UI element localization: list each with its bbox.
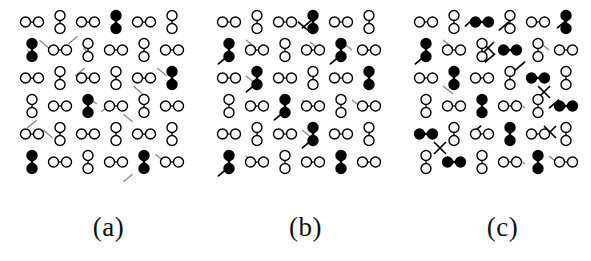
filled-dimer <box>83 95 93 118</box>
open-site <box>133 73 143 83</box>
open-site <box>21 73 31 83</box>
tick-mark <box>40 40 48 47</box>
open-site <box>315 45 325 55</box>
filled-dimer <box>27 39 37 62</box>
open-site <box>34 129 44 139</box>
filled-site <box>83 108 93 118</box>
tick-mark <box>69 36 77 43</box>
open-dimer <box>111 123 121 146</box>
open-site <box>280 52 290 62</box>
tick-mark <box>28 120 36 127</box>
open-dimer <box>161 157 184 167</box>
open-site <box>555 157 565 167</box>
open-dimer <box>49 101 72 111</box>
open-dimer <box>139 39 149 62</box>
caption-row: (a) (b) (c) <box>0 205 591 261</box>
open-dimer <box>364 11 374 34</box>
filled-site <box>421 52 431 62</box>
open-site <box>415 17 425 27</box>
filled-site <box>27 52 37 62</box>
filled-site <box>308 136 318 146</box>
open-site <box>161 45 171 55</box>
filled-site <box>415 129 425 139</box>
open-site <box>449 136 459 146</box>
open-dimer <box>218 73 241 83</box>
tick-mark <box>44 130 52 137</box>
open-dimer <box>330 17 353 27</box>
open-site <box>280 151 290 161</box>
open-dimer <box>167 11 177 34</box>
open-site <box>533 95 543 105</box>
open-site <box>561 80 571 90</box>
filled-site <box>27 39 37 49</box>
open-site <box>358 157 368 167</box>
open-site <box>287 17 297 27</box>
open-dimer <box>133 129 156 139</box>
filled-dimer <box>533 151 543 174</box>
open-dimer <box>280 39 290 62</box>
open-dimer <box>133 73 156 83</box>
open-site <box>471 73 481 83</box>
filled-site <box>308 24 318 34</box>
open-site <box>568 45 578 55</box>
open-site <box>174 101 184 111</box>
open-site <box>111 123 121 133</box>
open-site <box>118 157 128 167</box>
open-dimer <box>302 157 325 167</box>
open-site <box>118 101 128 111</box>
filled-site <box>167 80 177 90</box>
open-site <box>274 17 284 27</box>
open-site <box>259 157 269 167</box>
open-site <box>471 129 481 139</box>
open-site <box>105 157 115 167</box>
open-site <box>499 101 509 111</box>
open-dimer <box>49 45 72 55</box>
open-dimer <box>274 129 297 139</box>
open-site <box>315 101 325 111</box>
filled-site <box>280 95 290 105</box>
open-site <box>167 24 177 34</box>
open-site <box>302 45 312 55</box>
open-site <box>139 52 149 62</box>
open-site <box>274 129 284 139</box>
open-site <box>259 101 269 111</box>
open-dimer <box>505 67 515 90</box>
panel-b <box>207 0 404 205</box>
open-site <box>77 129 87 139</box>
open-site <box>62 157 72 167</box>
open-site <box>133 129 143 139</box>
open-dimer <box>83 151 93 174</box>
filled-site <box>477 95 487 105</box>
open-dimer <box>471 129 494 139</box>
open-dimer <box>415 17 438 27</box>
open-site <box>343 129 353 139</box>
open-site <box>27 95 37 105</box>
filled-site <box>336 164 346 174</box>
open-site <box>55 136 65 146</box>
filled-site <box>421 39 431 49</box>
open-site <box>105 45 115 55</box>
tick-mark <box>158 68 166 75</box>
filled-site <box>364 67 374 77</box>
open-site <box>302 101 312 111</box>
open-site <box>568 157 578 167</box>
open-site <box>527 17 537 27</box>
open-site <box>133 17 143 27</box>
filled-site <box>83 95 93 105</box>
open-site <box>146 73 156 83</box>
filled-site <box>252 80 262 90</box>
open-dimer <box>421 151 431 174</box>
open-dimer <box>358 45 381 55</box>
filled-dimer <box>336 151 346 174</box>
open-site <box>343 73 353 83</box>
open-site <box>364 24 374 34</box>
filled-site <box>555 101 565 111</box>
open-dimer <box>161 45 184 55</box>
open-site <box>118 45 128 55</box>
filled-site <box>477 108 487 118</box>
figure-container: (a) (b) (c) <box>0 0 591 261</box>
lattice-diagram-b <box>207 0 404 205</box>
open-dimer <box>246 101 269 111</box>
open-site <box>49 45 59 55</box>
open-site <box>555 45 565 55</box>
